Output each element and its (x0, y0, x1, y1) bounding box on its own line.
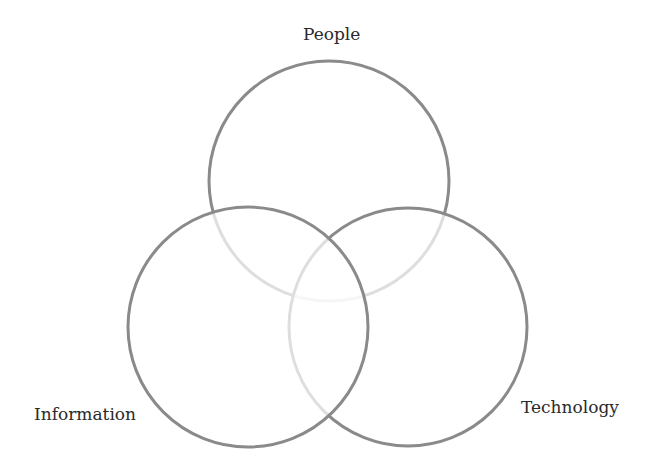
label-technology: Technology (521, 397, 619, 417)
label-information: Information (34, 404, 136, 424)
label-people: People (303, 24, 360, 44)
circle-information (128, 207, 368, 447)
